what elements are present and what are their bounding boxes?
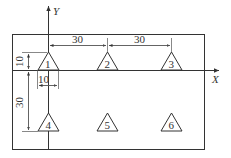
coordinate-diagram: Y X 30 30 10 30 10 1 2 3 4 [0,0,231,158]
dim-offset-x: 10 [38,73,50,85]
y-axis-label: Y [53,5,61,17]
svg-text:6: 6 [169,119,175,131]
hole-5: 5 [97,113,118,131]
hole-1: 1 [38,52,59,70]
x-axis-label: X [211,73,220,85]
svg-text:1: 1 [45,58,51,70]
svg-text:4: 4 [46,119,52,131]
dim-pitch-x-1: 30 [72,33,84,45]
hole-6: 6 [161,113,182,131]
hole-2: 2 [97,52,118,70]
svg-text:3: 3 [169,58,175,70]
hole-3: 3 [161,52,182,70]
dim-pitch-y: 30 [13,97,25,109]
hole-4: 4 [38,113,59,131]
svg-text:2: 2 [105,58,111,70]
dim-pitch-x-2: 30 [134,33,146,45]
part-outline [13,35,205,150]
dim-offset-y: 10 [13,56,25,68]
svg-text:5: 5 [105,119,111,131]
